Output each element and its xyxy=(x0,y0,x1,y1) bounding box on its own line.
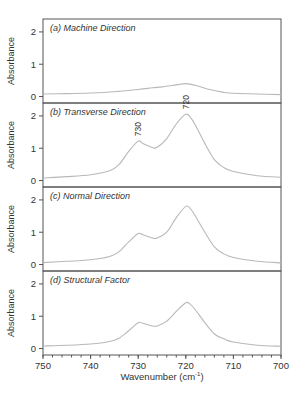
panel-title: (a) Machine Direction xyxy=(50,23,136,33)
panel-b: 012Absorbance(b) Transverse Direction730… xyxy=(6,95,281,187)
x-axis-label: Wavenumber (cm-1) xyxy=(120,371,203,382)
figure: 012Absorbance(a) Machine Direction012Abs… xyxy=(0,0,302,400)
y-tick-label: 2 xyxy=(31,194,36,205)
x-tick-label: 710 xyxy=(225,360,241,371)
panel-title: (b) Transverse Direction xyxy=(50,107,146,117)
x-tick-label: 720 xyxy=(178,360,194,371)
panel-title: (c) Normal Direction xyxy=(50,191,130,201)
x-axis: 750740730720710700 xyxy=(35,355,289,371)
y-tick-label: 2 xyxy=(31,278,36,289)
panel-c: 012Absorbance(c) Normal Direction xyxy=(6,187,281,271)
y-tick-label: 1 xyxy=(31,59,36,70)
y-tick-label: 1 xyxy=(31,227,36,238)
y-tick-label: 1 xyxy=(31,143,36,154)
x-tick-label: 750 xyxy=(35,360,51,371)
y-tick-label: 0 xyxy=(31,91,36,102)
y-tick-label: 0 xyxy=(31,343,36,354)
panel-d: 012Absorbance(d) Structural Factor xyxy=(6,271,281,355)
x-tick-label: 740 xyxy=(83,360,99,371)
panel-a: 012Absorbance(a) Machine Direction xyxy=(6,19,281,103)
x-tick-label: 730 xyxy=(130,360,146,371)
spectrum-curve xyxy=(43,206,281,263)
y-tick-label: 0 xyxy=(31,259,36,270)
panel-title: (d) Structural Factor xyxy=(50,275,131,285)
panels: 012Absorbance(a) Machine Direction012Abs… xyxy=(6,19,281,355)
y-tick-label: 2 xyxy=(31,26,36,37)
y-axis-label: Absorbance xyxy=(6,121,16,169)
spectrum-curve xyxy=(43,84,281,95)
peak-label: 720 xyxy=(181,95,191,109)
y-tick-label: 1 xyxy=(31,311,36,322)
y-tick-label: 0 xyxy=(31,175,36,186)
spectrum-curve xyxy=(43,114,281,178)
spectrum-curve xyxy=(43,302,281,346)
y-axis-label: Absorbance xyxy=(6,289,16,337)
y-axis-label: Absorbance xyxy=(6,37,16,85)
x-tick-label: 700 xyxy=(273,360,289,371)
y-tick-label: 2 xyxy=(31,110,36,121)
peak-label: 730 xyxy=(133,122,143,136)
y-axis-label: Absorbance xyxy=(6,205,16,253)
